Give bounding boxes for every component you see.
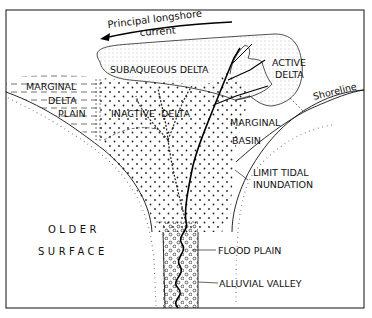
current-label-line2: current (139, 24, 176, 37)
active-delta-label: ACTIVE (272, 57, 306, 68)
marginal-delta-plain-label: MARGINAL (26, 81, 77, 92)
marginal-basin-label: MARGINAL (230, 117, 281, 128)
limit-tidal-label: INUNDATION (253, 179, 313, 190)
arrowhead-icon (100, 33, 110, 41)
marginal-basin-label: BASIN (232, 135, 261, 146)
active-delta-leader (290, 98, 303, 111)
delta-right-boundary (232, 90, 364, 232)
flood-plain-label: FLOOD PLAIN (218, 245, 281, 256)
marginal-delta-plain-label: PLAIN (58, 108, 86, 119)
inactive-delta-region (100, 70, 250, 232)
active-delta-label: DELTA (275, 69, 304, 80)
limit-tidal-leader (235, 170, 248, 180)
subaqueous-delta-label: SUBAQUEOUS DELTA (110, 64, 209, 75)
older-surface-label: SURFACE (38, 246, 108, 257)
older-surface-label: OLDER (48, 224, 100, 235)
alluvial-valley-label: ALLUVIAL VALLEY (219, 278, 302, 289)
delta-diagram: Principal longshore current SUBAQUEOUS D… (0, 0, 372, 318)
marginal-delta-plain-label: DELTA (48, 95, 77, 106)
alluvial-valley-leader (198, 282, 218, 283)
inactive-delta-label: INACTIVE DELTA (111, 108, 190, 119)
limit-tidal-label: LIMIT TIDAL (253, 167, 309, 178)
